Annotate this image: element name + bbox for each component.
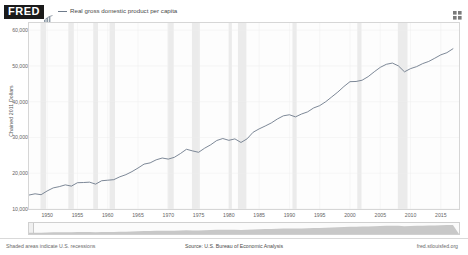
legend-swatch-series-0 xyxy=(58,11,67,12)
fred-chart-screenshot: FRED Real gross domestic product per cap… xyxy=(0,0,468,255)
y-tick-30000: 30,000 xyxy=(2,134,28,140)
source-label: Source: U.S. Bureau of Economic Analysis xyxy=(185,243,283,249)
expand-fullscreen-icon[interactable] xyxy=(453,6,462,15)
recession-note: Shaded areas indicate U.S. recessions xyxy=(6,243,95,249)
x-tick-2000: 2000 xyxy=(344,212,356,219)
y-tick-40000: 40,000 xyxy=(2,99,28,105)
y-axis: Chained 2011 Dollars 60,00050,00040,0003… xyxy=(0,22,28,210)
x-tick-1950: 1950 xyxy=(41,212,53,219)
x-axis: 1950195519601965197019751980198519901995… xyxy=(28,211,460,222)
y-tick-50000: 50,000 xyxy=(2,63,28,69)
x-tick-1990: 1990 xyxy=(284,212,296,219)
x-tick-1970: 1970 xyxy=(163,212,175,219)
legend-label-series-0[interactable]: Real gross domestic product per capita xyxy=(70,7,177,15)
x-tick-1980: 1980 xyxy=(223,212,235,219)
mini-chart-icon xyxy=(44,9,53,17)
x-tick-1975: 1975 xyxy=(193,212,205,219)
recession-band-2 xyxy=(93,23,98,209)
range-selector[interactable] xyxy=(28,222,460,235)
recession-bands xyxy=(41,23,408,209)
chart-header: FRED Real gross domestic product per cap… xyxy=(0,0,468,22)
x-tick-2005: 2005 xyxy=(374,212,386,219)
x-tick-2015: 2015 xyxy=(435,212,447,219)
x-tick-1995: 1995 xyxy=(314,212,326,219)
plot-svg xyxy=(29,23,459,209)
recession-band-6 xyxy=(229,23,232,209)
y-tick-60000: 60,000 xyxy=(2,27,28,33)
recession-band-9 xyxy=(357,23,361,209)
range-mini-chart xyxy=(29,223,459,234)
recession-band-0 xyxy=(41,23,46,209)
recession-band-4 xyxy=(168,23,174,209)
chart-footer: Shaded areas indicate U.S. recessions So… xyxy=(0,238,468,255)
y-axis-title: Chained 2011 Dollars xyxy=(8,36,14,186)
x-tick-1985: 1985 xyxy=(253,212,265,219)
range-series-area-0 xyxy=(29,225,459,234)
y-tick-10000: 10,000 xyxy=(2,206,28,212)
x-tick-2010: 2010 xyxy=(405,212,417,219)
chart-legend: Real gross domestic product per capita xyxy=(58,7,177,15)
recession-band-1 xyxy=(68,23,73,209)
recession-band-3 xyxy=(110,23,115,209)
x-tick-1965: 1965 xyxy=(132,212,144,219)
recession-band-10 xyxy=(398,23,408,209)
fred-logo[interactable]: FRED xyxy=(4,5,44,19)
x-tick-1960: 1960 xyxy=(102,212,114,219)
recession-band-7 xyxy=(238,23,246,209)
fred-url[interactable]: fred.stlouisfed.org xyxy=(417,243,458,249)
y-tick-20000: 20,000 xyxy=(2,170,28,176)
plot-area[interactable] xyxy=(28,22,460,210)
x-tick-1955: 1955 xyxy=(72,212,84,219)
